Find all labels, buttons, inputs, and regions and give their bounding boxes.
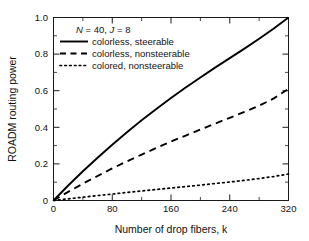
x-tick-label: 160 <box>163 203 179 214</box>
x-axis-title: Number of drop fibers, k <box>115 223 228 235</box>
legend-label: colored, nonsteerable <box>92 60 183 71</box>
y-axis-title: ROADM routing power <box>6 56 18 162</box>
y-tick-label: 0.4 <box>35 122 48 133</box>
parameter-annotation: N = 40, J = 8 <box>76 24 130 35</box>
chart-svg: 0 80 160 240 320 0 0.2 0.4 0.6 0.8 1.0 N… <box>0 0 309 241</box>
x-tick-label: 80 <box>107 203 118 214</box>
x-tick-labels: 0 80 160 240 320 <box>51 203 297 214</box>
legend-entry-solid: colorless, steerable <box>60 36 174 47</box>
legend-entry-dotted: colored, nonsteerable <box>60 60 183 71</box>
annotation-n-value: = 40, <box>83 24 110 35</box>
legend-label: colorless, steerable <box>92 36 174 47</box>
y-tick-label: 1.0 <box>35 12 48 23</box>
y-tick-label: 0.6 <box>35 85 48 96</box>
legend-entry-dashed: colorless, nonsteerable <box>60 48 190 59</box>
legend: colorless, steerable colorless, nonsteer… <box>60 36 190 71</box>
legend-label: colorless, nonsteerable <box>92 48 190 59</box>
series-line-colorless-nonsteerable <box>54 89 289 201</box>
y-tick-labels: 0 0.2 0.4 0.6 0.8 1.0 <box>35 12 48 206</box>
y-tick-label: 0.2 <box>35 158 48 169</box>
y-tick-label: 0.8 <box>35 48 48 59</box>
x-tick-label: 320 <box>281 203 297 214</box>
y-tick-label: 0 <box>43 195 48 206</box>
x-tick-label: 240 <box>222 203 238 214</box>
chart-figure: 0 80 160 240 320 0 0.2 0.4 0.6 0.8 1.0 N… <box>0 0 309 241</box>
annotation-j-value: = 8 <box>114 24 130 35</box>
x-tick-label: 0 <box>51 203 56 214</box>
